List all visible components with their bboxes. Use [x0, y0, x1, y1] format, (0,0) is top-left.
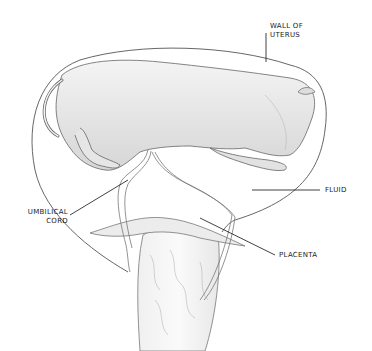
label-fluid: FLUID	[325, 186, 347, 195]
label-umbilical-cord: UMBILICAL CORD	[20, 208, 68, 226]
label-wall-of-uterus: WALL OF UTERUS	[270, 22, 303, 40]
label-placenta: PLACENTA	[279, 251, 317, 260]
uterus-illustration	[0, 0, 372, 351]
diagram-canvas: WALL OF UTERUS FLUID UMBILICAL CORD PLAC…	[0, 0, 372, 351]
